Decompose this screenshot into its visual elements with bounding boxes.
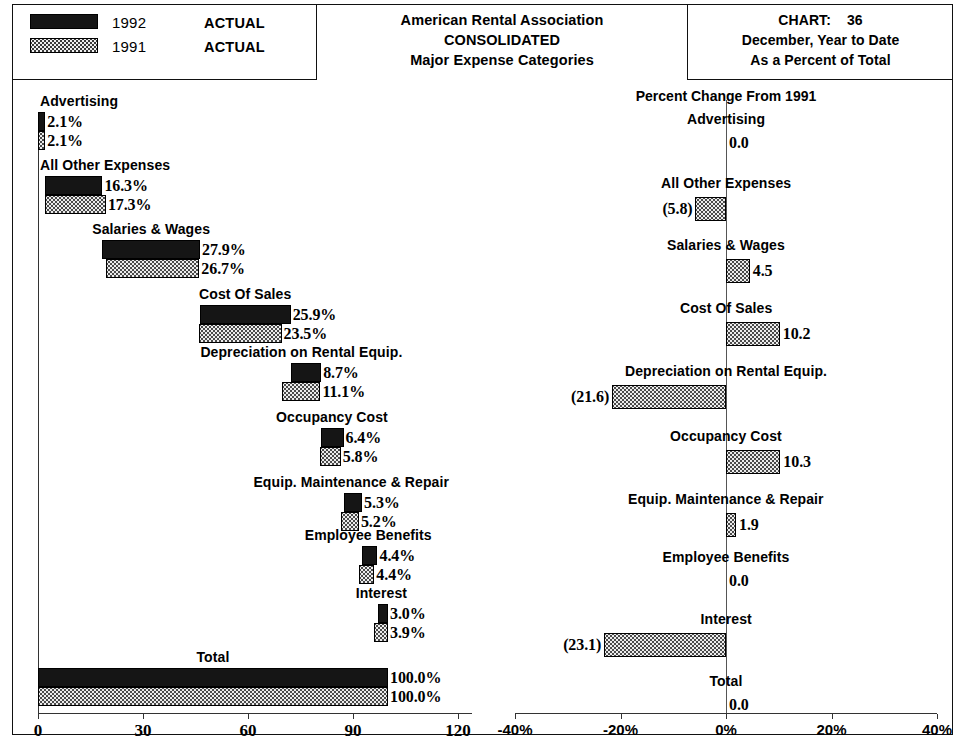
left-category-label: Salaries & Wages [92,221,210,237]
left-axis-tick-label: 120 [445,721,471,741]
left-bar-1991-value: 3.9% [390,624,426,642]
right-category-label: Occupancy Cost [670,428,782,444]
left-bar-1992-value: 6.4% [346,429,382,447]
left-category-label: All Other Expenses [40,157,170,173]
right-axis-tick [726,714,727,719]
right-axis-tick [937,714,938,719]
right-bar-value: 10.3 [783,453,811,471]
left-bar-1992-value: 25.9% [293,306,337,324]
left-bar-1992 [38,112,45,131]
left-bar-1991-value: 17.3% [108,196,152,214]
right-bar [726,513,736,537]
left-bar-1991-value: 2.1% [47,132,83,150]
left-axis-tick-label: 60 [240,721,257,741]
right-bar-value: 4.5 [753,262,773,280]
right-bar [726,322,780,346]
left-bar-1992 [362,546,377,565]
right-category-label: Employee Benefits [663,549,790,565]
right-axis-tick-label: -40% [497,721,532,738]
right-bar-value: (23.1) [563,636,601,654]
left-bar-1992 [291,363,321,382]
left-bar-1991 [38,131,45,150]
right-bar [726,259,750,283]
left-axis-tick [248,714,249,719]
right-bar-value: (5.8) [662,200,692,218]
right-bar-value: 0.0 [729,134,749,152]
right-category-label: Total [710,673,743,689]
left-bar-1992 [344,493,363,512]
right-category-label: Depreciation on Rental Equip. [625,363,827,379]
right-bar-value: (21.6) [571,388,609,406]
left-bar-1991 [106,259,199,278]
left-axis-tick-label: 90 [345,721,362,741]
left-bar-1992-value: 100.0% [390,669,441,687]
left-category-label: Occupancy Cost [276,409,388,425]
left-axis-tick [458,714,459,719]
left-category-label: Depreciation on Rental Equip. [200,344,402,360]
right-bar-value: 0.0 [729,572,749,590]
left-bar-1991-value: 26.7% [201,260,245,278]
right-category-label: Advertising [687,111,765,127]
left-axis-tick-label: 30 [135,721,152,741]
right-category-label: All Other Expenses [661,175,791,191]
plot-container: 0306090120Advertising2.1%2.1%All Other E… [0,0,969,744]
left-axis-vertical [38,112,39,713]
right-category-label: Interest [701,611,752,627]
left-bar-1991 [320,447,340,466]
left-bar-1991-value: 4.4% [376,566,412,584]
left-bar-1992 [45,176,102,195]
left-category-label: Total [197,649,230,665]
left-axis-horizontal [38,713,472,714]
left-axis-tick [353,714,354,719]
left-bar-1991-value: 11.1% [322,383,365,401]
left-bar-1992 [38,668,388,687]
right-bar [612,385,726,409]
right-axis-tick [621,714,622,719]
left-category-label: Advertising [40,93,118,109]
right-axis-tick-label: 0% [715,721,737,738]
left-category-label: Cost Of Sales [199,286,291,302]
right-bar [604,633,726,657]
left-bar-1991-value: 100.0% [390,688,441,706]
left-bar-1991-value: 5.8% [343,448,379,466]
left-bar-1992-value: 3.0% [390,605,426,623]
right-category-label: Salaries & Wages [667,237,785,253]
left-bar-1992-value: 2.1% [47,113,83,131]
right-axis-tick-label: 20% [816,721,846,738]
left-bar-1991 [199,324,281,343]
right-bar [695,197,726,221]
left-bar-1992-value: 4.4% [380,547,416,565]
right-axis-tick-label: -20% [603,721,638,738]
left-bar-1992 [200,305,291,324]
left-category-label: Interest [356,585,407,601]
left-bar-1991 [45,195,106,214]
left-category-label: Employee Benefits [305,527,432,543]
left-bar-1991 [359,565,374,584]
left-bar-1992 [321,428,343,447]
left-bar-1992-value: 8.7% [323,364,359,382]
left-bar-1991-value: 23.5% [284,325,328,343]
right-bar-value: 0.0 [729,696,749,714]
left-bar-1992-value: 27.9% [202,241,246,259]
left-bar-1991 [38,687,388,706]
right-axis-tick [832,714,833,719]
left-bar-1991 [282,382,321,401]
right-category-label: Cost Of Sales [680,300,772,316]
right-axis-tick-label: 40% [922,721,952,738]
left-bar-1992 [102,240,200,259]
left-bar-1992-value: 5.3% [364,494,400,512]
right-axis-tick [515,714,516,719]
right-bar-value: 1.9 [739,516,759,534]
left-axis-tick-label: 0 [34,721,43,741]
left-bar-1992-value: 16.3% [104,177,148,195]
right-bar-value: 10.2 [783,325,811,343]
right-bar [726,450,780,474]
left-axis-tick [143,714,144,719]
left-bar-1992 [378,604,389,623]
left-bar-1991 [374,623,388,642]
left-category-label: Equip. Maintenance & Repair [253,474,449,490]
right-category-label: Equip. Maintenance & Repair [628,491,824,507]
left-axis-tick [38,714,39,719]
